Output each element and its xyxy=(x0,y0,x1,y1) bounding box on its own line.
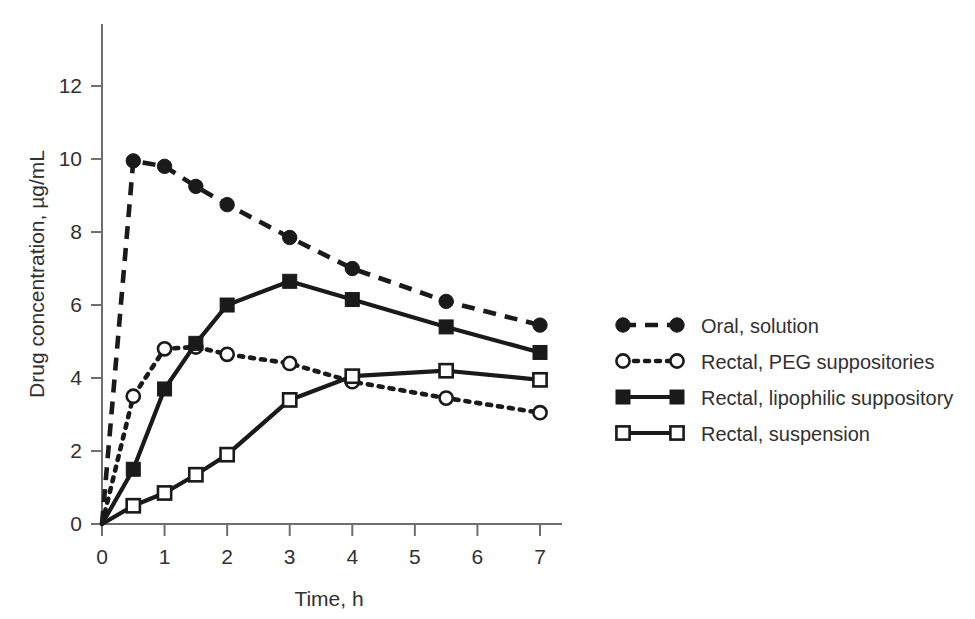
y-axis-tick-label: 8 xyxy=(70,220,82,243)
legend-marker-start-1 xyxy=(616,354,629,367)
data-point-marker xyxy=(158,382,172,396)
y-axis-tick-label: 10 xyxy=(59,147,82,170)
legend-marker-start-2 xyxy=(616,390,630,404)
data-point-marker xyxy=(157,159,171,173)
data-point-marker xyxy=(346,370,359,383)
data-point-marker xyxy=(533,345,547,359)
legend-marker-end-2 xyxy=(670,390,684,404)
chart-legend: Oral, solutionRectal, PEG suppositoriesR… xyxy=(616,315,954,445)
data-point-marker xyxy=(440,391,453,404)
data-point-marker xyxy=(283,393,296,406)
legend-label-3: Rectal, suspension xyxy=(701,423,870,445)
legend-marker-end-3 xyxy=(670,426,683,439)
data-point-marker xyxy=(189,179,203,193)
legend-marker-end-1 xyxy=(670,354,683,367)
y-axis-tick-label: 2 xyxy=(70,439,82,462)
legend-label-2: Rectal, lipophilic suppository xyxy=(701,387,953,409)
x-axis-tick-label: 7 xyxy=(534,545,546,568)
y-axis-tick-label: 6 xyxy=(70,293,82,316)
x-axis-tick-label: 1 xyxy=(159,545,171,568)
y-axis-tick-label: 4 xyxy=(70,366,82,389)
data-point-marker xyxy=(283,274,297,288)
data-point-marker xyxy=(283,230,297,244)
x-axis-tick-label: 3 xyxy=(284,545,296,568)
data-point-marker xyxy=(158,486,171,499)
data-point-marker xyxy=(126,462,140,476)
data-point-marker xyxy=(440,364,453,377)
x-axis-tick-label: 0 xyxy=(96,545,108,568)
data-point-marker xyxy=(221,448,234,461)
pharmacokinetic-chart: 02468101201234567Time, hDrug concentrati… xyxy=(0,0,975,619)
data-point-marker xyxy=(439,294,453,308)
legend-item-3: Rectal, suspension xyxy=(616,423,870,445)
data-point-marker xyxy=(345,261,359,275)
data-point-marker xyxy=(533,318,547,332)
data-point-marker xyxy=(126,154,140,168)
y-axis-tick-label: 0 xyxy=(70,512,82,535)
x-axis-tick-label: 4 xyxy=(346,545,358,568)
axes-group xyxy=(91,24,562,536)
y-axis-tick-label: 12 xyxy=(59,74,82,97)
legend-item-2: Rectal, lipophilic suppository xyxy=(616,387,953,409)
x-axis-tick-label: 2 xyxy=(221,545,233,568)
data-point-marker xyxy=(158,342,171,355)
series-0 xyxy=(102,154,547,524)
data-point-marker xyxy=(127,499,140,512)
data-point-marker xyxy=(189,468,202,481)
chart-canvas: 02468101201234567Time, hDrug concentrati… xyxy=(0,0,975,619)
data-point-marker xyxy=(533,373,546,386)
data-point-marker xyxy=(221,348,234,361)
data-point-marker xyxy=(127,390,140,403)
data-point-marker xyxy=(533,406,546,419)
x-axis-title: Time, h xyxy=(294,587,363,610)
data-point-marker xyxy=(345,293,359,307)
x-axis-tick-label: 5 xyxy=(409,545,421,568)
legend-label-1: Rectal, PEG suppositories xyxy=(701,351,934,373)
legend-item-1: Rectal, PEG suppositories xyxy=(616,351,934,373)
legend-marker-end-0 xyxy=(670,318,684,332)
legend-label-0: Oral, solution xyxy=(701,315,819,337)
data-point-marker xyxy=(439,320,453,334)
legend-marker-start-3 xyxy=(616,426,629,439)
data-point-marker xyxy=(283,357,296,370)
data-point-marker xyxy=(220,197,234,211)
data-point-marker xyxy=(220,298,234,312)
y-axis-title: Drug concentration, µg/mL xyxy=(25,150,48,398)
legend-item-0: Oral, solution xyxy=(616,315,819,337)
data-point-marker xyxy=(189,336,203,350)
x-axis-tick-label: 6 xyxy=(472,545,484,568)
legend-marker-start-0 xyxy=(616,318,630,332)
